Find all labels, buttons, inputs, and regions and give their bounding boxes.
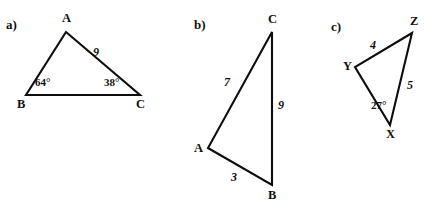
side-label-b-3: 3 — [231, 171, 237, 183]
angle-label-a-64: 64° — [35, 77, 50, 88]
vertex-label-a-C: C — [136, 98, 145, 111]
triangle-b-shape — [208, 32, 272, 185]
part-label-b: b) — [194, 18, 206, 31]
part-label-a: a) — [6, 18, 17, 31]
vertex-label-b-B: B — [268, 189, 276, 202]
vertex-label-c-Y: Y — [343, 60, 352, 73]
vertex-label-a-B: B — [17, 98, 25, 111]
triangles-svg — [0, 0, 431, 205]
side-label-c-4: 4 — [370, 39, 376, 51]
vertex-label-a-A: A — [62, 12, 71, 25]
vertex-label-b-C: C — [268, 13, 277, 26]
side-label-a-9: 9 — [93, 46, 99, 58]
vertex-label-c-Z: Z — [410, 15, 418, 28]
geometry-worksheet-figure: a) A B C 9 64° 38° b) C A B 7 9 3 c) Z Y… — [0, 0, 431, 205]
vertex-label-b-A: A — [194, 142, 203, 155]
part-label-c: c) — [331, 20, 341, 33]
triangle-c-shape — [355, 33, 412, 125]
angle-label-a-38: 38° — [104, 77, 119, 88]
side-label-b-7: 7 — [224, 76, 230, 88]
angle-label-c-27: 27° — [371, 100, 386, 111]
side-label-b-9: 9 — [278, 99, 284, 111]
side-label-c-5: 5 — [407, 79, 413, 91]
vertex-label-c-X: X — [386, 128, 395, 141]
